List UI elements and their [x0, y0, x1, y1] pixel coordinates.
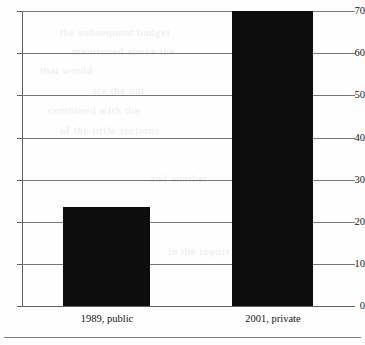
y-tick-label-20: 20	[345, 217, 365, 228]
y-tick-mark	[17, 222, 22, 223]
y-tick-label-10: 10	[345, 259, 365, 270]
y-tick-label-40: 40	[345, 133, 365, 144]
y-tick-mark	[17, 264, 22, 265]
x-tick-label-2001-private: 2001, private	[212, 313, 334, 324]
gridline-0-baseline	[22, 306, 355, 307]
y-tick-label-60: 60	[345, 48, 365, 59]
y-tick-mark	[17, 95, 22, 96]
y-tick-label-0: 0	[345, 301, 365, 312]
y-tick-label-30: 30	[345, 175, 365, 186]
y-tick-label-50: 50	[345, 90, 365, 101]
y-tick-label-70: 70	[345, 6, 365, 17]
bar-2001-private[interactable]	[232, 11, 313, 306]
y-axis	[0, 0, 22, 345]
y-tick-mark	[17, 306, 22, 307]
bar-1989-public[interactable]	[63, 207, 150, 306]
figure-bottom-rule	[4, 337, 361, 338]
bar-chart-figure: the subsequent budget mentioned above th…	[0, 0, 365, 345]
y-tick-mark	[17, 53, 22, 54]
y-tick-mark	[17, 138, 22, 139]
x-tick-label-1989-public: 1989, public	[46, 313, 168, 324]
y-tick-mark	[17, 180, 22, 181]
y-tick-mark	[17, 11, 22, 12]
